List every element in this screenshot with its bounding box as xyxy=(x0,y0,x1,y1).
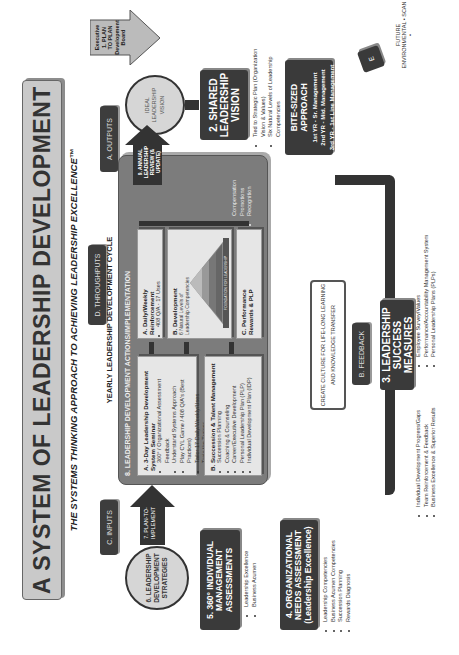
bite-sized-box: BITE-SIZED APPROACH 1st YR - Sr. Managem… xyxy=(285,60,333,155)
bullet: 360° / Organizational Assessment Feedbac… xyxy=(156,361,171,463)
bullet: Compensation xyxy=(231,159,239,216)
arrow-connector xyxy=(229,342,234,354)
ideal-line3: VISION xyxy=(159,88,166,123)
ideal-line2: LEADERSHIP xyxy=(151,88,158,123)
bullet: Performance/Accountability Management Sy… xyxy=(423,215,431,357)
exec-line3: TO PLAN xyxy=(107,10,114,65)
bullet: Leadership Excellence xyxy=(243,525,251,607)
throughputs-label: D. THROUGHPUTS xyxy=(88,245,106,325)
annual-line1: 9. ANNUAL LEADERSHIP xyxy=(137,141,149,183)
title-bar: A SYSTEM OF LEADERSHIP DEVELOPMENT xyxy=(22,80,62,600)
success-title2: SUCCESS MEASURES xyxy=(392,300,414,390)
succession-bullets: Succession Planning Coaching & Counselin… xyxy=(216,361,254,471)
bullet: Succession Planning xyxy=(337,510,345,622)
performance-title1: C. Performance xyxy=(240,233,247,335)
bullet: Employee Survey/Values xyxy=(415,215,423,357)
bullet: Career/Executive Development xyxy=(231,361,239,463)
exec-line2: 1. PLAN xyxy=(101,10,108,65)
succession-title: B. Succession & Talent Management xyxy=(209,361,216,471)
bullet: Tied to Strategic Plan (Organization Vis… xyxy=(252,45,267,137)
strategies-circle: 6. LEADERSHIP DEVELOPMENT STRATEGIES xyxy=(125,546,189,610)
bullet: Business Excellence & Superior Results xyxy=(430,395,438,507)
indiv-title3: ASSESSMENTS xyxy=(225,548,234,612)
feedback-connector xyxy=(335,175,390,185)
bullet: Individual Development Plan (IDP) xyxy=(246,361,254,463)
ideal-line1: IDEAL xyxy=(144,88,151,123)
shared-vision-box: 2. SHARED LEADERSHIP VISION xyxy=(200,70,248,140)
individual-bullets: Leadership Excellence Business Acumen xyxy=(243,525,258,615)
bullet: Business Acumen xyxy=(251,525,259,607)
daily-title1: A. Daily/Weekly xyxy=(141,233,148,335)
bullet: Individual Development Progress/Gaps xyxy=(415,395,423,507)
development-title: B. Development xyxy=(171,233,178,335)
yearly-cycle-label: YEARLY LEADERSHIP DEVELOPMENT CYCLE xyxy=(105,155,114,485)
bullet: Tailor 17 Daily/Weekly/Uses xyxy=(194,361,202,463)
bullet: Succession Planning xyxy=(216,361,224,463)
bullet: Personal Leadership Plans (PLPs) xyxy=(430,215,438,357)
environmental-scan-label: FUTURE ENVIRONMENTAL • SCAN • xyxy=(395,0,413,70)
bullet: Promotions xyxy=(239,159,247,216)
actions-panel: 8. LEADERSHIP DEVELOPMENT ACTIONS/IMPLEM… xyxy=(118,155,268,485)
needs-bullets: Leadership Competencies Business Acumen … xyxy=(322,510,352,630)
performance-title2: Rewards & PLP xyxy=(247,233,254,335)
individual-assessments-box: 5. 360° INDIVIDUAL MANAGEMENT ASSESSMENT… xyxy=(200,530,240,630)
executive-plan-arrow: Executive 1. PLAN TO PLAN Development Bo… xyxy=(90,10,160,65)
bullet: Business Acumen Competencies xyxy=(330,510,338,622)
bite-line: 2nd YR - Mid. Management xyxy=(319,64,327,151)
culture-box: CREATE CULTURE FOR LIFE-LONG LEARNING AN… xyxy=(310,280,346,410)
exec-line1: Executive xyxy=(94,10,101,65)
diagram-canvas: A SYSTEM OF LEADERSHIP DEVELOPMENT THE S… xyxy=(0,0,459,655)
exec-line4: Development xyxy=(114,10,121,65)
daily-title2: Reinforcement xyxy=(148,233,155,335)
arrow-connector xyxy=(149,342,154,354)
bullet: Coaching & Counseling xyxy=(224,361,232,463)
subtitle: THE SYSTEMS THINKING APPROACH TO ACHIEVI… xyxy=(68,80,79,600)
environmental-scan-box: E xyxy=(357,45,385,73)
feedback-label: B. FEEDBACK xyxy=(352,323,370,385)
succession-box: B. Succession & Talent Management Succes… xyxy=(204,356,262,476)
strategies-line3: STRATEGIES xyxy=(161,553,169,602)
bite-line: 1st YR - Sr. Management xyxy=(311,64,319,151)
performance-bullets: Compensation Promotions Recognition xyxy=(231,159,254,224)
development-box: B. Development 6 Natural Levels of Leade… xyxy=(167,229,232,339)
page-title: A SYSTEM OF LEADERSHIP DEVELOPMENT xyxy=(29,86,56,594)
shared-vision-title3: VISION xyxy=(230,88,241,122)
panel-header: 8. LEADERSHIP DEVELOPMENT ACTIONS/IMPLEM… xyxy=(124,271,131,476)
shared-vision-title1: 2. SHARED xyxy=(208,78,219,131)
performance-box: C. Performance Rewards & PLP xyxy=(236,229,262,339)
bullet: Recognition xyxy=(246,159,254,216)
annual-line2: REVIEW (& UPDATE) xyxy=(149,141,161,183)
success-title1: 3. LEADERSHIP xyxy=(381,307,392,383)
shared-vision-title2: LEADERSHIP xyxy=(219,73,230,137)
arrow-connector xyxy=(139,221,249,226)
seminar-title: A. 3-Day Leadership Development System S… xyxy=(142,361,156,471)
shared-vision-bullets: Tied to Strategic Plan (Organization Vis… xyxy=(252,45,282,145)
bullet: Rewards Diagnosis xyxy=(345,510,353,622)
annual-review-arrow: 9. ANNUAL LEADERSHIP REVIEW (& UPDATE) xyxy=(125,125,170,185)
strategies-line2: DEVELOPMENT xyxy=(153,553,161,602)
pyramid-base-label: FOUNDATION FOR LEADERSHIP xyxy=(224,238,228,328)
plan-line1: 7. PLAN-TO- xyxy=(143,503,150,543)
daily-bullets: 408 Q/A - 17 Uses xyxy=(155,233,163,335)
plan-line2: IMPLEMENT xyxy=(150,503,157,543)
exec-line5: Board xyxy=(120,10,127,65)
bullet: 408 Q/A - 17 Uses xyxy=(155,233,163,327)
arrow-connector xyxy=(184,342,189,354)
culture-line2: AND KNOWLEDGE TRANSFER xyxy=(330,305,336,385)
bullet: Six Natural Levels of Leadership Compete… xyxy=(267,45,282,137)
bullet: Team Reinforcement & Feedback xyxy=(423,395,431,507)
bite-line: 3rd YR - 1st Line Management xyxy=(328,64,336,151)
bullet: Personal Leadership Plan (PLP) xyxy=(239,361,247,463)
success-bullets-right: Employee Survey/Values Performance/Accou… xyxy=(415,215,438,365)
success-measures-box: 3. LEADERSHIP SUCCESS MEASURES xyxy=(380,300,414,390)
arrow-to-shared-vision xyxy=(185,100,199,110)
success-bullets-left: Individual Development Progress/Gaps Tea… xyxy=(415,395,438,515)
bite-sized-title: BITE-SIZED APPROACH xyxy=(289,64,309,151)
seminar-bullets: 360° / Organizational Assessment Feedbac… xyxy=(156,361,209,471)
culture-line1: CREATE CULTURE FOR LIFE-LONG LEARNING xyxy=(320,284,326,406)
daily-reinforcement-box: A. Daily/Weekly Reinforcement 408 Q/A - … xyxy=(137,229,163,339)
seminar-box: A. 3-Day Leadership Development System S… xyxy=(137,356,197,476)
plan-to-implement-arrow: 7. PLAN-TO- IMPLEMENT xyxy=(130,485,175,545)
needs-title3: (Leadership Excellence) xyxy=(304,526,313,623)
bullet: Understand Systems Approach xyxy=(171,361,179,463)
